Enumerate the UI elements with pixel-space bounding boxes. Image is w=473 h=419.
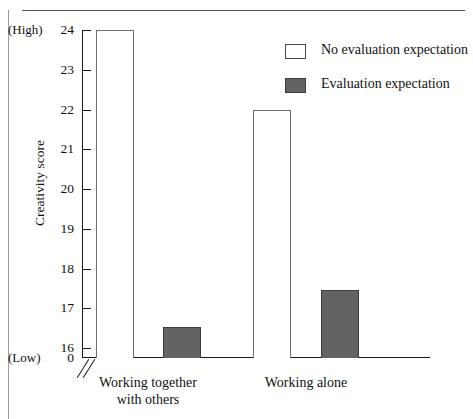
y-axis-title: Creativity score xyxy=(32,113,48,253)
legend-label-no-evaluation-expectation: No evaluation expectation xyxy=(321,41,468,59)
y-tick-19 xyxy=(82,229,91,230)
x-axis-group-label-1-line2: with others xyxy=(117,392,180,407)
low-annotation: (Low) xyxy=(8,351,60,364)
y-tick-24 xyxy=(82,30,91,31)
high-annotation: (High) xyxy=(8,23,60,36)
bar-group1-no-evaluation-expectation xyxy=(96,30,134,358)
y-tick-21 xyxy=(82,149,91,150)
y-tick-22 xyxy=(82,110,91,111)
legend-swatch-filled-icon xyxy=(285,78,306,93)
y-tick-label-18: 18 xyxy=(0,262,74,276)
chart-figure: 24 23 22 21 20 19 18 17 16 0 (High) (Low… xyxy=(0,0,473,419)
legend-swatch-open-icon xyxy=(285,44,306,59)
bar-group2-evaluation-expectation xyxy=(321,290,359,358)
y-tick-18 xyxy=(82,269,91,270)
y-tick-label-17: 17 xyxy=(0,301,74,315)
bar-group2-no-evaluation-expectation xyxy=(253,110,291,359)
y-tick-16 xyxy=(82,348,91,349)
bar-group1-evaluation-expectation xyxy=(163,327,201,358)
y-tick-label-23: 23 xyxy=(0,63,74,77)
x-axis-group-label-1: Working together with others xyxy=(83,374,213,408)
y-tick-20 xyxy=(82,189,91,190)
x-axis-group-label-1-line1: Working together xyxy=(99,375,197,390)
x-axis-group-label-2: Working alone xyxy=(241,374,371,391)
y-tick-23 xyxy=(82,70,91,71)
legend-label-evaluation-expectation: Evaluation expectation xyxy=(321,75,450,93)
top-rule xyxy=(22,10,465,11)
y-tick-17 xyxy=(82,308,91,309)
